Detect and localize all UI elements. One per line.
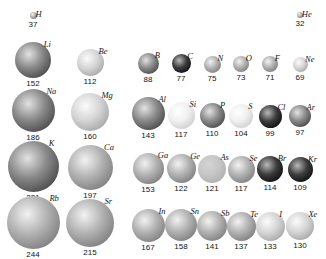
element-symbol-h: H [36, 10, 42, 19]
element-cell-ar: Ar97 [0, 0, 326, 259]
element-radius-mg: 160 [76, 133, 104, 141]
element-radius-he: 32 [286, 20, 314, 28]
element-radius-o: 73 [227, 74, 255, 82]
element-radius-sb: 141 [198, 243, 226, 251]
element-cell-sb: Sb141 [0, 0, 326, 259]
element-symbol-ge: Ge [190, 152, 200, 161]
element-symbol-o: O [246, 54, 252, 63]
element-radius-as: 121 [198, 185, 226, 193]
element-radius-i: 133 [256, 243, 284, 251]
element-cell-n: N75 [0, 0, 326, 259]
sphere-sn [165, 209, 197, 241]
element-symbol-si: Si [190, 100, 197, 109]
element-radius-ga: 153 [134, 186, 162, 194]
sphere-in [132, 209, 165, 242]
sphere-se [228, 156, 255, 183]
sphere-s [229, 104, 253, 128]
element-radius-k: 231 [19, 194, 47, 202]
sphere-h [30, 12, 37, 19]
sphere-br [257, 156, 283, 182]
element-cell-ge: Ge122 [0, 0, 326, 259]
element-symbol-he: He [302, 10, 312, 19]
element-cell-be: Be112 [0, 0, 326, 259]
element-symbol-kr: Kr [308, 155, 317, 164]
element-cell-k: K231 [0, 0, 326, 259]
element-symbol-f: F [275, 54, 280, 63]
element-radius-se: 117 [227, 185, 255, 193]
sphere-n [204, 56, 221, 73]
sphere-sb [197, 211, 227, 241]
element-radius-si: 117 [167, 131, 195, 139]
element-cell-si: Si117 [0, 0, 326, 259]
sphere-na [12, 89, 55, 132]
element-cell-li: Li152 [0, 0, 326, 259]
sphere-p [200, 103, 225, 128]
element-radius-ca: 197 [76, 192, 104, 200]
element-cell-o: O73 [0, 0, 326, 259]
element-symbol-i: I [279, 210, 282, 219]
element-cell-kr: Kr109 [0, 0, 326, 259]
element-radius-te: 137 [227, 243, 255, 251]
element-symbol-ga: Ga [158, 151, 168, 160]
element-symbol-b: B [155, 51, 160, 60]
sphere-ar [289, 105, 311, 127]
element-cell-in: In167 [0, 0, 326, 259]
element-radius-n: 75 [198, 75, 226, 83]
element-symbol-sn: Sn [191, 207, 200, 216]
sphere-he [297, 12, 303, 18]
element-cell-sn: Sn158 [0, 0, 326, 259]
element-symbol-ne: Ne [305, 55, 314, 64]
element-symbol-n: N [218, 54, 224, 63]
element-cell-he: He32 [0, 0, 326, 259]
sphere-li [15, 42, 51, 78]
sphere-mg [71, 93, 109, 131]
element-radius-na: 186 [19, 134, 47, 142]
element-symbol-cl: Cl [277, 103, 285, 112]
element-symbol-k: K [49, 139, 55, 148]
sphere-si [168, 102, 195, 129]
sphere-k [8, 141, 59, 192]
element-symbol-br: Br [278, 154, 287, 163]
sphere-al [132, 97, 165, 130]
element-radius-cl: 99 [256, 130, 284, 138]
element-symbol-sb: Sb [221, 209, 230, 218]
sphere-ca [68, 145, 113, 190]
sphere-o [233, 56, 249, 72]
element-cell-se: Se117 [0, 0, 326, 259]
element-cell-b: B88 [0, 0, 326, 259]
element-cell-rb: Rb244 [0, 0, 326, 259]
element-symbol-na: Na [46, 87, 56, 96]
element-cell-xe: Xe130 [0, 0, 326, 259]
sphere-b [138, 53, 159, 74]
element-cell-al: Al143 [0, 0, 326, 259]
element-symbol-xe: Xe [308, 210, 317, 219]
sphere-cl [259, 105, 282, 128]
sphere-i [256, 212, 285, 241]
element-cell-br: Br114 [0, 0, 326, 259]
element-radius-rb: 244 [19, 251, 47, 259]
element-symbol-c: C [187, 52, 193, 61]
element-radius-f: 71 [256, 74, 284, 82]
sphere-xe [286, 212, 314, 240]
element-symbol-in: In [158, 207, 165, 216]
element-symbol-as: As [220, 153, 229, 162]
sphere-ne [293, 57, 308, 72]
element-radius-p: 110 [198, 130, 226, 138]
element-cell-te: Te137 [0, 0, 326, 259]
element-cell-p: P110 [0, 0, 326, 259]
element-cell-ga: Ga153 [0, 0, 326, 259]
element-symbol-li: Li [44, 40, 51, 49]
element-cell-as: As121 [0, 0, 326, 259]
sphere-f [262, 56, 278, 72]
element-symbol-s: S [248, 102, 252, 111]
element-cell-s: S104 [0, 0, 326, 259]
element-cell-i: I133 [0, 0, 326, 259]
sphere-sr [66, 199, 114, 247]
sphere-be [77, 49, 104, 76]
sphere-te [227, 212, 256, 241]
sphere-c [172, 54, 191, 73]
element-radius-xe: 130 [286, 242, 314, 250]
sphere-ge [167, 154, 196, 183]
element-symbol-se: Se [250, 154, 258, 163]
sphere-ga [133, 153, 164, 184]
